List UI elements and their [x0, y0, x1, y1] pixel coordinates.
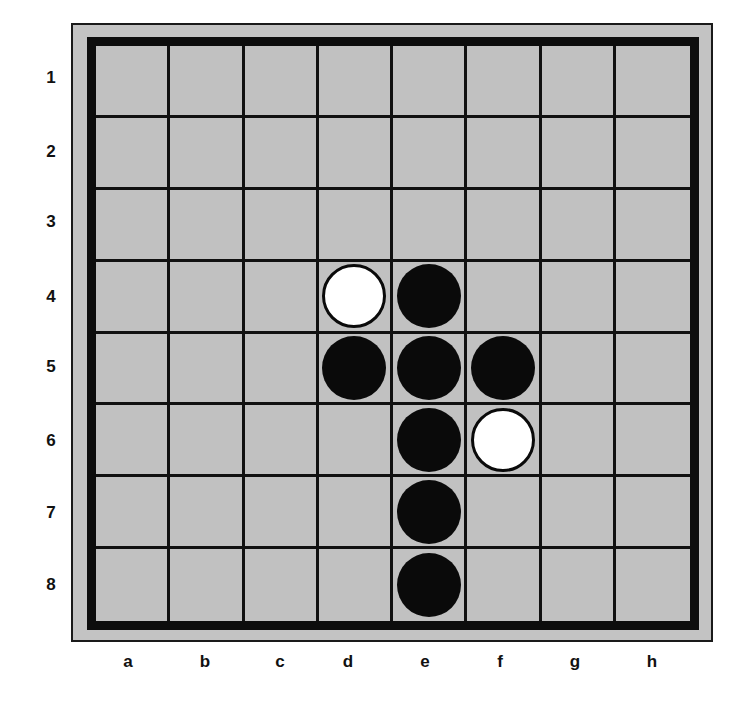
column-label: h: [637, 652, 667, 672]
row-label: 6: [36, 431, 66, 451]
square-e2[interactable]: [393, 118, 467, 190]
square-e6[interactable]: [393, 405, 467, 477]
column-label: a: [113, 652, 143, 672]
square-e7[interactable]: [393, 477, 467, 549]
black-disc-icon: [397, 553, 461, 617]
square-b2[interactable]: [170, 118, 244, 190]
column-label: e: [410, 652, 440, 672]
black-disc-icon: [397, 264, 461, 328]
black-disc-icon: [322, 336, 386, 400]
row-label: 1: [36, 68, 66, 88]
square-b3[interactable]: [170, 190, 244, 262]
square-b7[interactable]: [170, 477, 244, 549]
square-c7[interactable]: [245, 477, 319, 549]
square-g6[interactable]: [542, 405, 616, 477]
row-label: 7: [36, 503, 66, 523]
square-c6[interactable]: [245, 405, 319, 477]
column-label: c: [265, 652, 295, 672]
black-disc-icon: [397, 480, 461, 544]
square-f2[interactable]: [467, 118, 541, 190]
square-a3[interactable]: [96, 190, 170, 262]
row-label: 5: [36, 357, 66, 377]
square-g1[interactable]: [542, 46, 616, 118]
white-disc-icon: [471, 408, 535, 472]
column-label: g: [560, 652, 590, 672]
black-disc-icon: [397, 408, 461, 472]
square-c5[interactable]: [245, 334, 319, 406]
column-label: b: [190, 652, 220, 672]
square-h3[interactable]: [616, 190, 690, 262]
othello-board: [87, 37, 699, 630]
square-g7[interactable]: [542, 477, 616, 549]
square-h2[interactable]: [616, 118, 690, 190]
square-d1[interactable]: [319, 46, 393, 118]
column-label: d: [333, 652, 363, 672]
square-h1[interactable]: [616, 46, 690, 118]
square-a4[interactable]: [96, 262, 170, 334]
black-disc-icon: [397, 336, 461, 400]
square-h6[interactable]: [616, 405, 690, 477]
black-disc-icon: [471, 336, 535, 400]
square-a7[interactable]: [96, 477, 170, 549]
square-f7[interactable]: [467, 477, 541, 549]
row-label: 2: [36, 142, 66, 162]
square-b1[interactable]: [170, 46, 244, 118]
column-label: f: [485, 652, 515, 672]
row-label: 4: [36, 287, 66, 307]
square-g5[interactable]: [542, 334, 616, 406]
square-f1[interactable]: [467, 46, 541, 118]
square-b6[interactable]: [170, 405, 244, 477]
square-g3[interactable]: [542, 190, 616, 262]
white-disc-icon: [322, 264, 386, 328]
square-e4[interactable]: [393, 262, 467, 334]
square-b8[interactable]: [170, 549, 244, 621]
square-f8[interactable]: [467, 549, 541, 621]
square-a6[interactable]: [96, 405, 170, 477]
square-d4[interactable]: [319, 262, 393, 334]
row-label: 3: [36, 212, 66, 232]
square-e3[interactable]: [393, 190, 467, 262]
square-h8[interactable]: [616, 549, 690, 621]
square-a1[interactable]: [96, 46, 170, 118]
square-g8[interactable]: [542, 549, 616, 621]
square-a5[interactable]: [96, 334, 170, 406]
square-d7[interactable]: [319, 477, 393, 549]
square-h7[interactable]: [616, 477, 690, 549]
square-f4[interactable]: [467, 262, 541, 334]
square-d3[interactable]: [319, 190, 393, 262]
square-d2[interactable]: [319, 118, 393, 190]
square-c4[interactable]: [245, 262, 319, 334]
square-g4[interactable]: [542, 262, 616, 334]
square-f6[interactable]: [467, 405, 541, 477]
square-g2[interactable]: [542, 118, 616, 190]
square-b4[interactable]: [170, 262, 244, 334]
square-d5[interactable]: [319, 334, 393, 406]
square-c2[interactable]: [245, 118, 319, 190]
square-e1[interactable]: [393, 46, 467, 118]
square-b5[interactable]: [170, 334, 244, 406]
square-a2[interactable]: [96, 118, 170, 190]
square-c3[interactable]: [245, 190, 319, 262]
square-h4[interactable]: [616, 262, 690, 334]
square-c1[interactable]: [245, 46, 319, 118]
square-e5[interactable]: [393, 334, 467, 406]
row-label: 8: [36, 575, 66, 595]
square-e8[interactable]: [393, 549, 467, 621]
square-d6[interactable]: [319, 405, 393, 477]
square-a8[interactable]: [96, 549, 170, 621]
square-f5[interactable]: [467, 334, 541, 406]
square-d8[interactable]: [319, 549, 393, 621]
square-c8[interactable]: [245, 549, 319, 621]
square-f3[interactable]: [467, 190, 541, 262]
square-h5[interactable]: [616, 334, 690, 406]
